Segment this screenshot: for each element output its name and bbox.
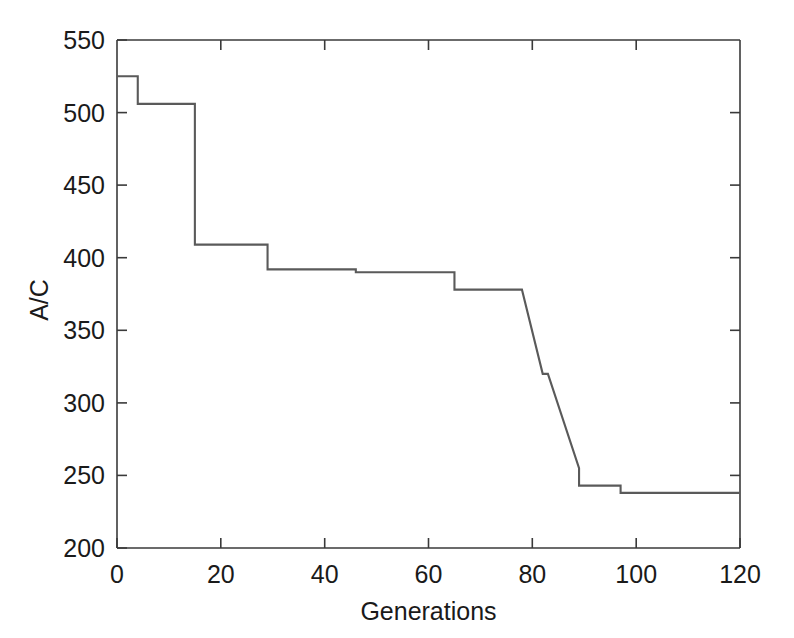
convergence-plot: 200 250 300 350 400 450 500 550 0 20 40 … bbox=[0, 0, 794, 638]
x-axis-label-0: 0 bbox=[110, 560, 124, 588]
y-axis-label-200: 200 bbox=[63, 534, 105, 562]
y-axis-label-300: 300 bbox=[63, 389, 105, 417]
x-axis-label-60: 60 bbox=[415, 560, 443, 588]
x-axis-label-80: 80 bbox=[518, 560, 546, 588]
y-axis-label-400: 400 bbox=[63, 244, 105, 272]
chart-figure: 200 250 300 350 400 450 500 550 0 20 40 … bbox=[0, 0, 794, 638]
y-axis-label-450: 450 bbox=[63, 171, 105, 199]
y-axis-label-250: 250 bbox=[63, 461, 105, 489]
x-axis-title: Generations bbox=[360, 597, 496, 625]
y-axis-title: A/C bbox=[25, 279, 53, 321]
figure-background bbox=[0, 0, 794, 638]
x-axis-label-120: 120 bbox=[719, 560, 761, 588]
y-axis-label-550: 550 bbox=[63, 26, 105, 54]
x-axis-label-20: 20 bbox=[207, 560, 235, 588]
y-axis-label-350: 350 bbox=[63, 316, 105, 344]
y-axis-label-500: 500 bbox=[63, 99, 105, 127]
x-axis-label-40: 40 bbox=[311, 560, 339, 588]
x-axis-label-100: 100 bbox=[615, 560, 657, 588]
